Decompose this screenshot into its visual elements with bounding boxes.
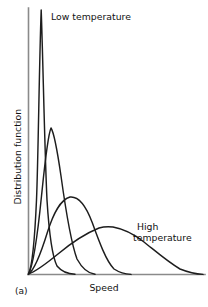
- annotation-low-temperature: Low temperature: [51, 11, 131, 22]
- figure-caption: (a): [15, 286, 28, 297]
- y-axis-label: Distribution function: [12, 92, 23, 222]
- maxwell-boltzmann-distribution-figure: Low temperature Hightemperature Speed Di…: [0, 0, 208, 307]
- x-axis-label: Speed: [0, 282, 208, 293]
- curve-low-temperature: [29, 10, 76, 274]
- distribution-plot: [0, 0, 208, 307]
- annotation-high-temperature: Hightemperature: [133, 221, 192, 244]
- annotation-high-temperature-line1: High: [133, 221, 192, 232]
- annotation-high-temperature-line2: temperature: [133, 232, 192, 243]
